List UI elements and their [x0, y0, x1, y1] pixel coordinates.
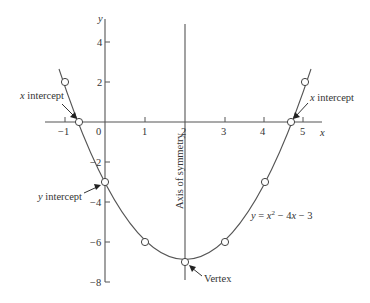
x-tick-label: 5: [300, 126, 305, 137]
x-ticks: [65, 117, 303, 122]
equation-label: y = x2 − 4x − 3: [250, 209, 313, 221]
x-tick-label: 1: [142, 126, 147, 137]
x-axis-label: x: [319, 127, 325, 138]
y-tick-label: −8: [90, 277, 101, 288]
y-tick-label: −4: [90, 197, 102, 208]
x-intercept-right-label: x intercept: [309, 92, 354, 103]
x-tick-label: 0: [96, 126, 101, 137]
y-intercept-arrow: [84, 187, 97, 193]
x-intercept-right-arrow: [296, 103, 308, 116]
x-tick-label: 3: [221, 126, 226, 137]
y-ticks: [105, 42, 110, 282]
x-tick-label: −1: [58, 126, 69, 137]
y-intercept-label: y intercept: [37, 191, 82, 202]
arrow-head-icon: [94, 184, 101, 190]
y-tick-label: 4: [97, 37, 103, 48]
y-tick-label: 2: [97, 77, 102, 88]
y-tick-label: −6: [90, 237, 101, 248]
x-tick-label: 4: [260, 126, 266, 137]
parabola-chart: −1 0 1 2 3 4 5 x 4 2 −2 −4 −6 −8 y x int…: [0, 0, 370, 303]
vertex-label: Vertex: [204, 273, 232, 284]
x-intercept-left-label: x intercept: [19, 90, 64, 101]
y-axis-label: y: [97, 13, 103, 24]
axis-of-symmetry-label: Axis of symmetry: [174, 132, 185, 209]
